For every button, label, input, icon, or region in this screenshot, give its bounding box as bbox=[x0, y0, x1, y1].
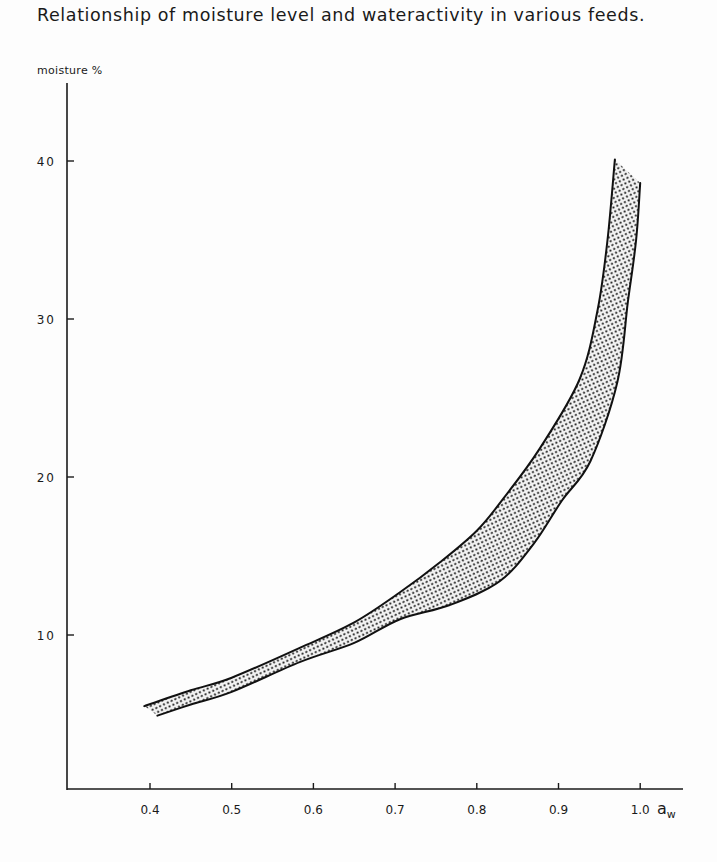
x-axis-label: aw bbox=[657, 799, 676, 821]
y-tick-label: 10 bbox=[37, 629, 56, 643]
x-tick-label: 0.7 bbox=[386, 803, 405, 817]
y-tick-label: 20 bbox=[37, 471, 56, 485]
x-tick-label: 0.4 bbox=[140, 803, 159, 817]
y-tick-label: 40 bbox=[37, 155, 56, 169]
x-tick-label: 1.0 bbox=[631, 803, 650, 817]
y-tick-label: 30 bbox=[37, 313, 56, 327]
moisture-band bbox=[144, 159, 640, 715]
stippled-band-fill bbox=[144, 159, 640, 715]
x-tick-label: 0.6 bbox=[304, 803, 323, 817]
chart-plot: 0.40.50.60.70.80.91.010203040 aw bbox=[0, 0, 717, 862]
x-tick-label: 0.5 bbox=[222, 803, 241, 817]
x-tick-label: 0.8 bbox=[467, 803, 486, 817]
x-tick-label: 0.9 bbox=[549, 803, 568, 817]
